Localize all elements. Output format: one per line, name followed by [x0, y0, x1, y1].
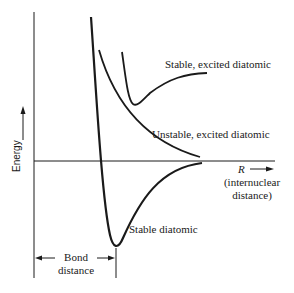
energy-axis-label: Energy	[11, 140, 22, 172]
bond-arrow-right-icon	[108, 256, 115, 261]
potential-energy-diagram: Energy Stable, excited diatomic Unstable…	[0, 0, 294, 293]
bond-distance-label-line1: Bond	[54, 251, 98, 263]
r-axis-label-line2: distance)	[216, 189, 288, 201]
energy-arrow-head-icon	[21, 106, 26, 114]
bond-distance-label-line2: distance	[50, 264, 102, 276]
unstable-excited-label: Unstable, excited diatomic	[152, 128, 270, 140]
diagram-canvas	[0, 0, 294, 293]
r-axis-label-line1: (internuclear	[216, 176, 288, 188]
r-arrow-head-icon	[266, 167, 274, 172]
r-axis-symbol: R	[238, 163, 245, 175]
stable-diatomic-label: Stable diatomic	[129, 223, 198, 235]
stable-excited-label: Stable, excited diatomic	[165, 58, 271, 70]
bond-arrow-left-icon	[35, 256, 42, 261]
